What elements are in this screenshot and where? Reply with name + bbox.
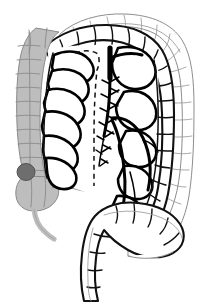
anatomical-figure: Right hemicolectomy schematic of the lar… xyxy=(0,0,205,303)
colon-anatomy-diagram xyxy=(0,0,205,303)
tumor-nodule xyxy=(17,164,35,181)
